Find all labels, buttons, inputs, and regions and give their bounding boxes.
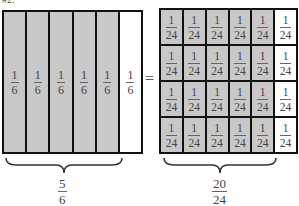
cell-numerator: 1 xyxy=(282,50,290,62)
twenty-fourth-cell: 124 xyxy=(275,10,296,44)
cell-numerator: 1 xyxy=(190,86,198,98)
cell-numerator: 1 xyxy=(236,50,244,62)
twenty-fourth-cell: 124 xyxy=(252,10,273,44)
cell-denominator: 24 xyxy=(166,29,178,41)
cell-numerator: 1 xyxy=(213,86,221,98)
cell-numerator: 1 xyxy=(236,86,244,98)
cell-numerator: 1 xyxy=(282,122,290,134)
cell-numerator: 1 xyxy=(282,14,290,26)
sixth-strip-5: 16 xyxy=(97,12,120,152)
cell-denominator: 24 xyxy=(280,65,292,77)
sixth-strip-6: 16 xyxy=(120,12,141,152)
strip-denominator: 6 xyxy=(12,84,18,96)
problem-number-label: #2. xyxy=(2,0,15,5)
sixth-strip-1: 16 xyxy=(4,12,27,152)
cell-denominator: 24 xyxy=(257,65,269,77)
cell-denominator: 24 xyxy=(234,137,246,149)
cell-numerator: 1 xyxy=(190,122,198,134)
cell-denominator: 24 xyxy=(234,101,246,113)
cell-numerator: 1 xyxy=(213,14,221,26)
twenty-fourth-cell: 124 xyxy=(161,46,182,80)
cell-numerator: 1 xyxy=(236,14,244,26)
cell-denominator: 24 xyxy=(257,29,269,41)
cell-numerator: 1 xyxy=(213,122,221,134)
twenty-fourth-cell: 124 xyxy=(207,82,228,116)
strip-numerator: 1 xyxy=(80,69,88,81)
cell-numerator: 1 xyxy=(259,50,267,62)
cell-numerator: 1 xyxy=(168,122,176,134)
strip-denominator: 6 xyxy=(104,84,110,96)
cell-numerator: 1 xyxy=(190,14,198,26)
left-result-numerator: 5 xyxy=(58,177,67,190)
cell-denominator: 24 xyxy=(188,65,200,77)
twenty-fourth-cell: 124 xyxy=(230,82,251,116)
twenty-fourth-cell: 124 xyxy=(207,10,228,44)
cell-denominator: 24 xyxy=(211,65,223,77)
twenty-fourth-cell: 124 xyxy=(161,10,182,44)
twenty-fourth-cell: 124 xyxy=(184,46,205,80)
cell-denominator: 24 xyxy=(211,29,223,41)
sixth-strip-2: 16 xyxy=(27,12,50,152)
equals-sign: = xyxy=(145,70,154,88)
cell-numerator: 1 xyxy=(190,50,198,62)
cell-denominator: 24 xyxy=(234,29,246,41)
twenty-fourth-cell: 124 xyxy=(207,118,228,152)
cell-denominator: 24 xyxy=(280,137,292,149)
twenty-fourth-cell: 124 xyxy=(252,82,273,116)
cell-denominator: 24 xyxy=(211,101,223,113)
twenty-fourth-cell: 124 xyxy=(230,46,251,80)
right-curly-brace xyxy=(162,156,278,176)
strip-numerator: 1 xyxy=(11,69,19,81)
cell-denominator: 24 xyxy=(188,101,200,113)
strip-denominator: 6 xyxy=(58,84,64,96)
cell-numerator: 1 xyxy=(259,86,267,98)
twenty-fourth-cell: 124 xyxy=(230,10,251,44)
cell-denominator: 24 xyxy=(188,29,200,41)
twenty-fourth-cell: 124 xyxy=(207,46,228,80)
left-result-fraction: 56 xyxy=(58,176,67,206)
cell-denominator: 24 xyxy=(280,101,292,113)
twenty-fourth-cell: 124 xyxy=(161,82,182,116)
right-result-denominator: 24 xyxy=(213,193,226,206)
strip-numerator: 1 xyxy=(34,69,42,81)
cell-numerator: 1 xyxy=(282,86,290,98)
sixth-strip-4: 16 xyxy=(74,12,97,152)
cell-denominator: 24 xyxy=(166,101,178,113)
twenty-fourth-cell: 124 xyxy=(275,82,296,116)
right-result-numerator: 20 xyxy=(212,177,227,190)
sixth-strip-3: 16 xyxy=(50,12,73,152)
twenty-fourth-cell: 124 xyxy=(184,10,205,44)
cell-denominator: 24 xyxy=(280,29,292,41)
cell-numerator: 1 xyxy=(259,122,267,134)
left-result-denominator: 6 xyxy=(59,193,66,206)
cell-numerator: 1 xyxy=(236,122,244,134)
sixths-fraction-bar: 16 16 16 16 16 16 xyxy=(2,10,143,154)
cell-numerator: 1 xyxy=(168,86,176,98)
strip-denominator: 6 xyxy=(35,84,41,96)
strip-numerator: 1 xyxy=(103,69,111,81)
cell-denominator: 24 xyxy=(234,65,246,77)
strip-denominator: 6 xyxy=(127,84,133,96)
cell-numerator: 1 xyxy=(259,14,267,26)
twenty-fourths-grid: 1241241241241241241241241241241241241241… xyxy=(159,8,298,154)
cell-denominator: 24 xyxy=(166,65,178,77)
strip-numerator: 1 xyxy=(57,69,65,81)
cell-denominator: 24 xyxy=(188,137,200,149)
strip-denominator: 6 xyxy=(81,84,87,96)
twenty-fourth-cell: 124 xyxy=(275,46,296,80)
left-curly-brace xyxy=(4,156,124,176)
twenty-fourth-cell: 124 xyxy=(184,82,205,116)
twenty-fourth-cell: 124 xyxy=(275,118,296,152)
twenty-fourth-cell: 124 xyxy=(184,118,205,152)
twenty-fourth-cell: 124 xyxy=(161,118,182,152)
cell-denominator: 24 xyxy=(257,101,269,113)
twenty-fourth-cell: 124 xyxy=(252,46,273,80)
right-result-fraction: 2024 xyxy=(212,176,227,206)
cell-numerator: 1 xyxy=(213,50,221,62)
cell-denominator: 24 xyxy=(257,137,269,149)
twenty-fourth-cell: 124 xyxy=(230,118,251,152)
strip-numerator: 1 xyxy=(126,69,134,81)
cell-denominator: 24 xyxy=(166,137,178,149)
cell-denominator: 24 xyxy=(211,137,223,149)
twenty-fourth-cell: 124 xyxy=(252,118,273,152)
